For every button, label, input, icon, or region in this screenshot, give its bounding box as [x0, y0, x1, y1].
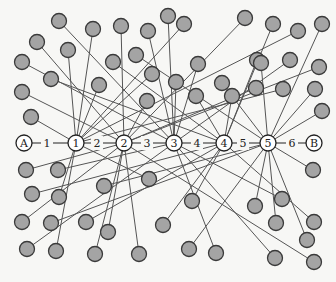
peripheral-node: [20, 242, 35, 257]
peripheral-node: [25, 187, 40, 202]
peripheral-node: [269, 216, 284, 231]
peripheral-node: [291, 24, 306, 39]
peripheral-node: [276, 82, 291, 97]
edge-label-2: 2: [94, 137, 101, 150]
peripheral-node: [145, 67, 160, 82]
edge-label-3: 3: [144, 137, 151, 150]
chain-node-label: 5: [265, 137, 272, 150]
peripheral-node: [306, 163, 321, 178]
peripheral-node: [79, 215, 94, 230]
peripheral-node: [209, 246, 224, 261]
peripheral-node: [92, 78, 107, 93]
chain-node-label: 1: [73, 137, 80, 150]
peripheral-node: [140, 94, 155, 109]
chain-node-label: 4: [221, 137, 228, 150]
peripheral-node: [185, 194, 200, 209]
peripheral-node: [254, 56, 269, 71]
network-diagram: 123456 A12345B: [0, 0, 336, 282]
peripheral-node: [106, 55, 121, 70]
peripheral-node: [189, 89, 204, 104]
chain-node-label: B: [310, 137, 318, 150]
peripheral-node: [52, 190, 67, 205]
peripheral-node: [24, 110, 39, 125]
peripheral-node: [248, 199, 263, 214]
peripheral-node: [161, 9, 176, 24]
peripheral-node: [52, 14, 67, 29]
edge-label-4: 4: [194, 137, 201, 150]
peripheral-node: [129, 48, 144, 63]
peripheral-node: [169, 75, 184, 90]
peripheral-node: [114, 19, 129, 34]
peripheral-node: [61, 43, 76, 58]
peripheral-node: [315, 104, 330, 119]
peripheral-node: [315, 17, 330, 32]
peripheral-node: [15, 215, 30, 230]
peripheral-node: [88, 247, 103, 262]
peripheral-node: [177, 17, 192, 32]
edge-label-1: 1: [44, 137, 51, 150]
network-graph-canvas: 123456 A12345B: [0, 0, 336, 282]
peripheral-node: [19, 163, 34, 178]
peripheral-node: [142, 172, 157, 187]
edge-label-5: 5: [240, 137, 247, 150]
peripheral-node: [51, 163, 66, 178]
peripheral-node: [44, 216, 59, 231]
peripheral-node: [307, 215, 322, 230]
peripheral-node: [266, 17, 281, 32]
peripheral-node: [49, 244, 64, 259]
chain-node-label: A: [19, 137, 29, 150]
peripheral-node: [156, 218, 171, 233]
chain-node-A: A: [16, 135, 32, 151]
peripheral-node: [300, 233, 315, 248]
peripheral-node: [215, 76, 230, 91]
peripheral-node: [182, 242, 197, 257]
peripheral-node: [191, 57, 206, 72]
peripheral-node: [44, 72, 59, 87]
chain-node-1: 1: [68, 135, 84, 151]
peripheral-node: [225, 89, 240, 104]
peripheral-node: [238, 11, 253, 26]
peripheral-node: [141, 24, 156, 39]
peripheral-node: [283, 53, 298, 68]
chain-node-4: 4: [216, 135, 232, 151]
peripheral-node: [30, 35, 45, 50]
peripheral-node: [86, 22, 101, 37]
chain-node-2: 2: [116, 135, 132, 151]
peripheral-node: [268, 251, 283, 266]
peripheral-node: [308, 82, 323, 97]
peripheral-node: [101, 225, 116, 240]
peripheral-node: [307, 255, 322, 270]
peripheral-node: [275, 192, 290, 207]
chain-node-B: B: [306, 135, 322, 151]
peripheral-node: [97, 179, 112, 194]
edge-label-6: 6: [289, 137, 296, 150]
chain-node-label: 3: [171, 137, 178, 150]
peripheral-node: [132, 247, 147, 262]
chain-node-label: 2: [121, 137, 128, 150]
chain-node-3: 3: [166, 135, 182, 151]
peripheral-node: [15, 55, 30, 70]
peripheral-node: [249, 81, 264, 96]
chain-node-5: 5: [260, 135, 276, 151]
peripheral-node: [15, 85, 30, 100]
peripheral-node: [312, 60, 327, 75]
